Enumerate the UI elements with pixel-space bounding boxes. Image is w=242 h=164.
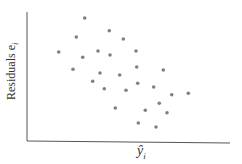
- data-point: [170, 93, 174, 97]
- x-axis: [27, 141, 230, 143]
- data-point: [134, 49, 138, 53]
- data-point: [165, 111, 169, 115]
- data-point: [152, 85, 156, 89]
- data-point: [158, 102, 162, 106]
- data-point: [114, 106, 118, 110]
- data-point: [187, 92, 191, 96]
- data-points: [57, 16, 190, 129]
- data-point: [108, 53, 112, 57]
- data-point: [144, 109, 148, 113]
- scatter-plot: [0, 0, 242, 164]
- x-axis-label: ŷi: [137, 143, 146, 161]
- data-point: [71, 68, 75, 72]
- data-point: [108, 29, 112, 33]
- y-axis-label: Residuals ei: [4, 42, 20, 100]
- data-point: [122, 37, 126, 41]
- data-point: [136, 82, 140, 86]
- data-point: [124, 89, 128, 93]
- data-point: [57, 50, 61, 54]
- data-point: [91, 80, 95, 84]
- data-point: [81, 56, 85, 60]
- data-point: [162, 68, 166, 72]
- data-point: [96, 49, 100, 53]
- data-point: [137, 121, 141, 125]
- data-point: [83, 16, 87, 20]
- data-point: [103, 87, 107, 91]
- data-point: [154, 125, 158, 129]
- data-point: [98, 71, 102, 75]
- data-point: [75, 35, 79, 39]
- data-point: [118, 73, 122, 77]
- data-point: [135, 65, 139, 69]
